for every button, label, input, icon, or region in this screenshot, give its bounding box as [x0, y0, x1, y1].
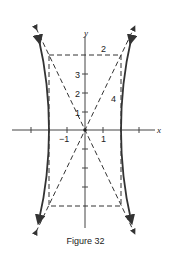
half-height-label: 4: [111, 94, 116, 104]
x-axis-label: x: [156, 125, 161, 135]
y-tick-label-3: 3: [75, 70, 80, 80]
y-tick-label-2: 2: [75, 89, 80, 99]
y-axis-label: y: [83, 28, 88, 38]
x-tick-label-1: 1: [101, 134, 106, 144]
origin-point: [83, 128, 87, 132]
x-tick-label-neg1: −1: [59, 134, 69, 144]
figure-caption: Figure 32: [0, 236, 171, 246]
y-tick-label-1: 1: [75, 108, 80, 118]
hyperbola-figure: y x 1 2 3 −1 1 2 4: [0, 0, 171, 256]
half-width-label: 2: [101, 44, 106, 54]
